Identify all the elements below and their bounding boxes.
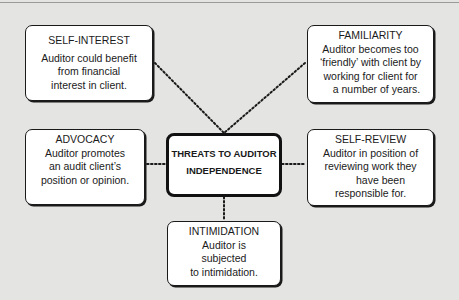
threat-title: FAMILIARITY: [308, 29, 433, 43]
threat-description-line: a number of years.: [308, 83, 433, 97]
threat-description-line: Auditor could benefit: [26, 52, 152, 66]
threat-description-line: working for client for: [308, 70, 433, 84]
threat-description-line: Auditor is: [168, 239, 280, 253]
threat-title: ADVOCACY: [26, 133, 144, 147]
central-topic-line: INDEPENDENCE: [169, 162, 279, 179]
threat-description-line: Auditor in position of: [308, 147, 433, 161]
threat-box-self-review: SELF-REVIEW Auditor in position of revie…: [307, 129, 434, 206]
threat-box-familiarity: FAMILIARITY Auditor becomes too ‘friendl…: [307, 25, 434, 103]
threat-description-line: to intimidation.: [168, 266, 280, 280]
connector-self-interest: [155, 63, 224, 133]
threat-description-line: reviewing work they: [308, 160, 433, 174]
threat-box-intimidation: INTIMIDATION Auditor is subjected to int…: [167, 221, 281, 286]
threat-description-line: interest in client.: [26, 79, 152, 93]
threat-description-line: an audit client’s: [26, 160, 144, 174]
threat-description-line: Auditor becomes too: [308, 43, 433, 57]
threat-description-line: Auditor promotes: [26, 147, 144, 161]
central-topic-box: THREATS TO AUDITOR INDEPENDENCE: [166, 133, 282, 197]
threat-title: INTIMIDATION: [168, 225, 280, 239]
threat-description-line: have been: [308, 174, 433, 188]
threat-description-line: position or opinion.: [26, 174, 144, 188]
threat-box-self-interest: SELF-INTEREST Auditor could benefit from…: [25, 25, 153, 101]
threat-description-line: ‘friendly’ with client by: [308, 56, 433, 70]
threat-box-advocacy: ADVOCACY Auditor promotes an audit clien…: [25, 129, 145, 205]
threat-description-line: responsible for.: [308, 187, 433, 201]
threat-description-line: from financial: [26, 65, 152, 79]
central-topic-line: THREATS TO AUDITOR: [169, 145, 279, 162]
connector-familiarity: [224, 63, 305, 133]
threat-title: SELF-REVIEW: [308, 133, 433, 147]
threat-title: SELF-INTEREST: [26, 34, 152, 48]
threat-description-line: subjected: [168, 252, 280, 266]
